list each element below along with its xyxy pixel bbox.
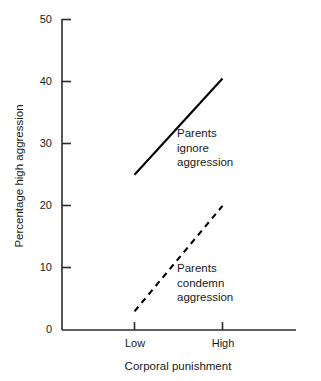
y-axis-title: Percentage high aggression [13,96,25,256]
y-tick-label-50: 50 [26,14,52,25]
x-tick-label-high: High [193,338,253,349]
annotation-ignore-line-1: Parents [177,126,233,141]
annotation-condemn-line-3: aggression [177,290,233,305]
annotation-condemn-line-1: Parents [177,261,233,276]
series-annotation-parents-ignore-aggression: Parents ignore aggression [177,126,233,170]
series-annotation-parents-condemn-aggression: Parents condemn aggression [177,261,233,305]
x-axis-title: Corporal punishment [98,360,258,372]
annotation-condemn-line-2: condemn [177,276,233,291]
y-tick-label-0: 0 [26,324,52,335]
annotation-ignore-line-3: aggression [177,155,233,170]
aggression-line-chart: 50 40 30 20 10 0 Low High Percentage hig… [0,0,321,381]
y-tick-label-10: 10 [26,262,52,273]
annotation-ignore-line-2: ignore [177,141,233,156]
y-tick-label-20: 20 [26,200,52,211]
y-tick-label-40: 40 [26,76,52,87]
y-tick-label-30: 30 [26,138,52,149]
x-tick-label-low: Low [105,338,165,349]
